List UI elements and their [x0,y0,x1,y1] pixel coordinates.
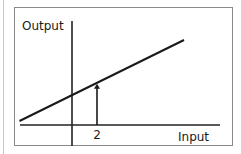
series-line [20,40,185,121]
x-axis-label: Input [178,130,209,144]
chart: Output Input 2 [0,0,241,154]
y-axis-label: Output [22,19,64,33]
x-tick-label: 2 [93,128,101,142]
